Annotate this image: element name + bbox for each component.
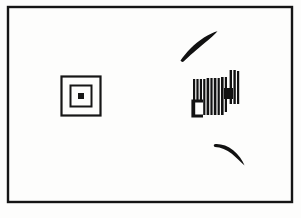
figure-canvas xyxy=(0,0,301,218)
bar-8 xyxy=(218,78,220,115)
bar-9 xyxy=(221,77,224,115)
bar-4 xyxy=(203,79,205,115)
bar-7 xyxy=(214,78,217,115)
solid-block-accent xyxy=(224,88,233,99)
figure-container: Scanned line drawing with concentric squ… xyxy=(0,0,301,218)
bar-6 xyxy=(210,78,212,115)
bar-3 xyxy=(200,79,202,101)
canvas-background xyxy=(0,0,301,218)
square-ring-3 xyxy=(78,93,84,99)
bar-13 xyxy=(237,71,239,104)
bar-2 xyxy=(196,79,198,101)
bar-5 xyxy=(207,78,210,115)
bar-12 xyxy=(233,70,235,104)
